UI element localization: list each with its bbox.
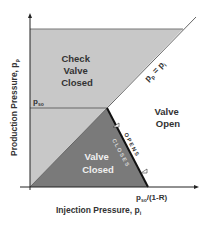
check-valve-closed-label: Check Valve Closed: [61, 53, 93, 88]
valve-envelope-diagram: Check Valve Closed Valve Open Valve Clos…: [0, 0, 213, 226]
x-axis-arrow-icon: [194, 185, 199, 189]
x-intercept-label: pso/(1-R): [136, 193, 168, 203]
y-axis-arrow-icon: [28, 13, 32, 18]
y-axis-label: Production Pressure, pp: [9, 58, 20, 156]
closes-arrow-icon: [141, 169, 147, 173]
x-axis-label: Injection Pressure, pi: [56, 205, 142, 216]
valve-open-label: Valve Open: [155, 106, 182, 129]
